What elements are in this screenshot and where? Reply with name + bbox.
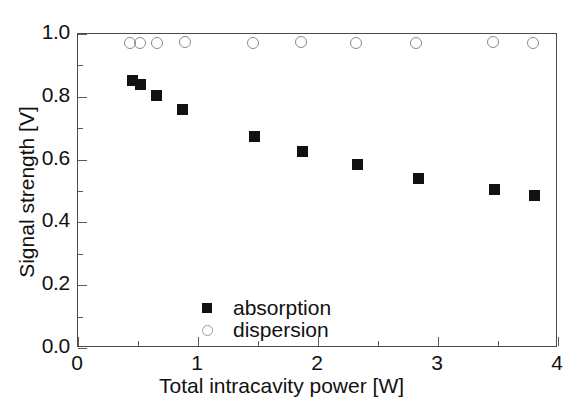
x-minor-tick <box>378 341 379 346</box>
legend-item-dispersion: dispersion <box>196 319 331 341</box>
data-point-dispersion <box>151 37 163 49</box>
x-tick-0 <box>78 337 79 346</box>
x-minor-tick <box>498 341 499 346</box>
x-tick-4 <box>558 337 559 346</box>
legend-label-dispersion: dispersion <box>233 318 329 342</box>
data-point-absorption <box>529 190 540 201</box>
y-tick-label-0.8: 0.8 <box>8 83 70 107</box>
x-tick-label-0: 0 <box>57 351 97 375</box>
plot-area: absorption dispersion <box>77 33 557 347</box>
y-tick-label-0.4: 0.4 <box>8 208 70 232</box>
data-point-absorption <box>249 131 260 142</box>
scatter-chart-figure: Signal strength [V] 0.00.20.40.60.81.0 0… <box>0 0 563 405</box>
data-point-dispersion <box>247 37 259 49</box>
y-minor-tick <box>78 317 83 318</box>
data-point-absorption <box>352 159 363 170</box>
y-tick-0.4 <box>78 222 87 223</box>
x-minor-tick <box>138 341 139 346</box>
x-tick-label-1: 1 <box>177 351 217 375</box>
x-tick-label-2: 2 <box>297 351 337 375</box>
chart-legend: absorption dispersion <box>196 297 331 341</box>
y-tick-label-1.0: 1.0 <box>8 20 70 44</box>
y-minor-tick <box>78 254 83 255</box>
y-minor-tick <box>78 191 83 192</box>
legend-label-absorption: absorption <box>233 296 331 320</box>
data-point-dispersion <box>295 36 307 48</box>
data-point-absorption <box>413 173 424 184</box>
y-tick-0.8 <box>78 97 87 98</box>
x-axis-title: Total intracavity power [W] <box>0 374 563 398</box>
data-point-absorption <box>177 104 188 115</box>
y-tick-label-0.6: 0.6 <box>8 146 70 170</box>
y-tick-0.6 <box>78 160 87 161</box>
data-point-absorption <box>297 146 308 157</box>
legend-item-absorption: absorption <box>196 297 331 319</box>
x-tick-label-4: 4 <box>537 351 563 375</box>
y-tick-0.2 <box>78 285 87 286</box>
data-point-absorption <box>489 184 500 195</box>
y-minor-tick <box>78 65 83 66</box>
data-point-dispersion <box>487 36 499 48</box>
x-tick-label-3: 3 <box>417 351 457 375</box>
data-point-dispersion <box>410 37 422 49</box>
x-tick-3 <box>438 337 439 346</box>
data-point-absorption <box>151 90 162 101</box>
data-point-dispersion <box>527 37 539 49</box>
data-point-absorption <box>135 79 146 90</box>
data-point-dispersion <box>179 36 191 48</box>
y-tick-label-0.2: 0.2 <box>8 271 70 295</box>
y-tick-0.0 <box>78 348 87 349</box>
y-minor-tick <box>78 128 83 129</box>
filled-square-icon <box>196 303 218 313</box>
data-point-dispersion <box>134 37 146 49</box>
data-point-dispersion <box>350 37 362 49</box>
open-circle-icon <box>196 325 218 336</box>
y-tick-1.0 <box>78 34 87 35</box>
